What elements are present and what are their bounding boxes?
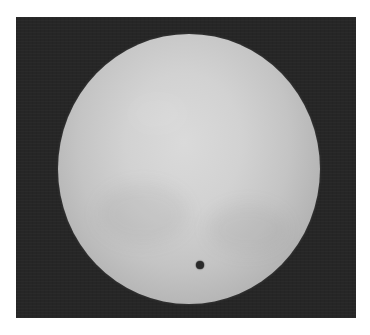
- dark-sky-frame: [16, 17, 356, 318]
- solar-disk: [58, 34, 320, 304]
- transit-spot: [196, 261, 204, 269]
- image-canvas: [0, 0, 370, 335]
- surface-mottling: [128, 94, 188, 134]
- surface-mottling: [208, 204, 288, 254]
- surface-mottling: [98, 184, 188, 244]
